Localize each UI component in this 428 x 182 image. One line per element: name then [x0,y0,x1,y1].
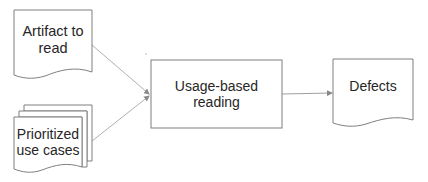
artifact-label-line-2: read [22,40,83,57]
usecases-label: Prioritized use cases [14,119,82,165]
usecases-label-line-2: use cases [16,142,79,158]
process-label: Usage-based reading [151,60,282,128]
usecases-label-line-1: Prioritized [16,126,79,142]
edge-artifact-to-process [92,45,149,94]
stray-dot [145,53,146,54]
edge-process-to-defects [282,93,332,94]
artifact-label: Artifact to read [14,12,92,68]
process-label-text: Usage-based reading [151,78,282,110]
edge-usecases-to-process [92,96,149,141]
artifact-label-line-1: Artifact to [22,23,83,40]
defects-label: Defects [333,61,413,111]
defects-label-text: Defects [349,78,396,94]
